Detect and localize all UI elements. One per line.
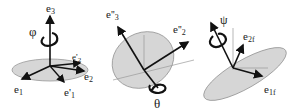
label-e1f: e1f <box>264 83 276 97</box>
label-e1-prime: e'1 <box>64 86 75 100</box>
panel-psi: ψ e2f e1f <box>197 13 292 110</box>
label-e2: e2 <box>84 70 93 84</box>
disk <box>102 21 184 100</box>
euler-rotation-diagram: φ e3 e2 e'2 e1 e'1 θ e''3 e''2 ψ e2f e1f <box>0 0 294 112</box>
label-e3: e3 <box>46 2 55 16</box>
panel-phi: φ e3 e2 e'2 e1 e'1 <box>12 2 93 100</box>
label-e2-double-prime: e''2 <box>173 23 186 37</box>
label-e1: e1 <box>14 83 23 97</box>
angle-label: φ <box>29 24 37 39</box>
angle-label: ψ <box>220 13 228 27</box>
label-e3-double-prime: e''3 <box>106 8 119 22</box>
panel-theta: θ e''3 e''2 <box>102 8 194 111</box>
label-e2f: e2f <box>243 30 255 44</box>
disk <box>197 38 292 109</box>
angle-label: θ <box>154 96 160 111</box>
